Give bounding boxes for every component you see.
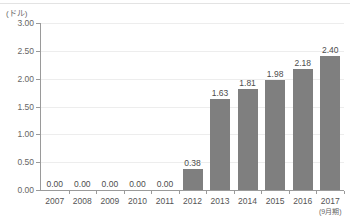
x-axis-tick: [151, 191, 152, 194]
bar-value-label: 0.00: [129, 179, 146, 189]
y-axis-tick-label: 2.50: [17, 46, 34, 56]
bar-2014[interactable]: [238, 89, 258, 190]
y-axis-unit-label: (ドル): [6, 7, 27, 18]
y-axis-tick-label: 2.00: [17, 74, 34, 84]
y-axis-tick-label: 1.50: [17, 102, 34, 112]
x-axis-tick: [96, 191, 97, 194]
bar-value-label: 1.81: [239, 78, 256, 88]
y-axis-tick-label: 0.50: [17, 157, 34, 167]
bar-2013[interactable]: [210, 99, 230, 190]
x-axis-tick: [344, 191, 345, 194]
bar-value-label: 0.00: [157, 179, 174, 189]
x-axis-sublabel-2017: (9月期): [319, 206, 342, 216]
bar-value-label: 1.98: [267, 69, 284, 79]
y-axis-tick: [36, 23, 40, 24]
bar-value-label: 2.40: [322, 45, 339, 55]
y-axis-tick: [36, 134, 40, 135]
x-axis-label-2016: 2016: [293, 196, 312, 206]
y-axis-tick: [36, 107, 40, 108]
y-axis-line: [40, 23, 41, 191]
bar-2012[interactable]: [183, 169, 203, 190]
bar-value-label: 0.38: [184, 158, 201, 168]
top-rule-divider: [0, 3, 350, 4]
x-axis-label-2010: 2010: [128, 196, 147, 206]
x-axis-label-2015: 2015: [266, 196, 285, 206]
x-axis-label-2012: 2012: [183, 196, 202, 206]
x-axis-label-2013: 2013: [211, 196, 230, 206]
x-axis-tick: [289, 191, 290, 194]
x-axis-tick: [261, 191, 262, 194]
bar-value-label: 0.00: [102, 179, 119, 189]
bar-2016[interactable]: [293, 69, 313, 190]
bar-value-label: 0.00: [74, 179, 91, 189]
x-axis-label-2011: 2011: [156, 196, 174, 206]
y-axis-tick: [36, 79, 40, 80]
x-axis-line: [40, 190, 344, 191]
x-axis-label-2017: 2017: [321, 196, 340, 206]
bar-value-label: 2.18: [294, 58, 311, 68]
bar-value-label: 1.63: [212, 88, 229, 98]
x-axis-label-2009: 2009: [100, 196, 119, 206]
gridline: [41, 51, 344, 52]
bar-2015[interactable]: [265, 80, 285, 190]
y-axis-tick: [36, 162, 40, 163]
bar-2017[interactable]: [320, 56, 340, 190]
x-axis-tick: [124, 191, 125, 194]
y-axis-tick: [36, 190, 40, 191]
bar-chart: (ドル) 0.000.501.001.502.002.503.00 0.0020…: [0, 0, 350, 222]
x-axis-tick: [69, 191, 70, 194]
x-axis-label-2014: 2014: [238, 196, 257, 206]
x-axis-label-2008: 2008: [73, 196, 92, 206]
gridline: [41, 23, 344, 24]
y-axis-tick-label: 0.00: [17, 185, 34, 195]
x-axis-tick: [234, 191, 235, 194]
x-axis-tick: [316, 191, 317, 194]
y-axis-tick-label: 3.00: [17, 18, 34, 28]
y-axis-tick-label: 1.00: [17, 129, 34, 139]
x-axis-tick: [179, 191, 180, 194]
y-axis-tick: [36, 51, 40, 52]
x-axis-tick: [206, 191, 207, 194]
bar-value-label: 0.00: [46, 179, 63, 189]
x-axis-label-2007: 2007: [45, 196, 64, 206]
